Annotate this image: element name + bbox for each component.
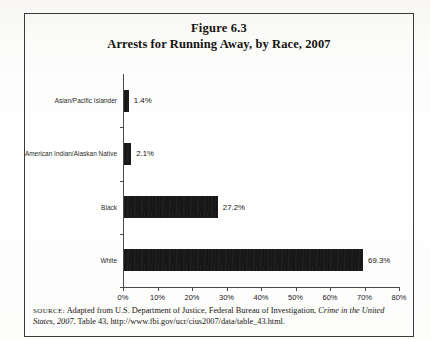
bar-value-label: 69.3% [368, 256, 390, 265]
x-axis-tick-label: 10% [150, 293, 165, 302]
category-label: Black [101, 204, 117, 211]
source-note: SOURCE: Adapted from U.S. Department of … [33, 306, 405, 327]
bar-texture [124, 143, 131, 165]
x-axis-tick [330, 287, 331, 291]
x-axis-tick-label: 40% [253, 293, 268, 302]
bar-value-label: 1.4% [134, 96, 152, 105]
chart: 0%10%20%30%40%50%60%70%80%1.4%Asian/Paci… [24, 66, 414, 301]
figure-number: Figure 6.3 [24, 20, 414, 36]
bar [124, 143, 131, 165]
x-axis-tick [192, 287, 193, 291]
x-axis-tick [296, 287, 297, 291]
bar-texture [124, 196, 218, 218]
bar [124, 249, 363, 271]
bar-texture [124, 249, 363, 271]
x-axis-tick-label: 0% [118, 293, 129, 302]
category-label: American Indian/Alaskan Native [25, 150, 117, 157]
x-axis-tick-label: 20% [184, 293, 199, 302]
x-axis-tick-label: 70% [357, 293, 372, 302]
x-axis-tick-label: 80% [391, 293, 406, 302]
bar-texture [124, 90, 129, 112]
plot-area: 0%10%20%30%40%50%60%70%80%1.4%Asian/Paci… [123, 74, 399, 298]
bar [124, 196, 218, 218]
x-axis-tick-label: 30% [219, 293, 234, 302]
x-axis-tick [158, 287, 159, 291]
y-axis-tick [120, 181, 123, 182]
source-label: SOURCE: [33, 307, 65, 315]
source-text-1: Adapted from U.S. Department of Justice,… [65, 306, 318, 315]
figure-caption: Arrests for Running Away, by Race, 2007 [24, 36, 414, 53]
figure-title: Figure 6.3 Arrests for Running Away, by … [24, 20, 414, 53]
x-axis-tick-label: 50% [288, 293, 303, 302]
y-axis-tick [120, 287, 123, 288]
category-label: White [100, 257, 117, 264]
x-axis-tick [261, 287, 262, 291]
x-axis-tick [227, 287, 228, 291]
source-text-2: , Table 43, http://www.fbi.gov/ucr/cius2… [74, 317, 285, 326]
x-axis-tick [365, 287, 366, 291]
y-axis-tick [120, 127, 123, 128]
bar-value-label: 27.2% [223, 203, 245, 212]
bar-value-label: 2.1% [136, 149, 154, 158]
x-axis-tick-label: 60% [322, 293, 337, 302]
x-axis-tick [399, 287, 400, 291]
y-axis-tick [120, 234, 123, 235]
x-axis-tick [123, 287, 124, 291]
bar [124, 90, 129, 112]
category-label: Asian/Pacific Islander [55, 97, 117, 104]
